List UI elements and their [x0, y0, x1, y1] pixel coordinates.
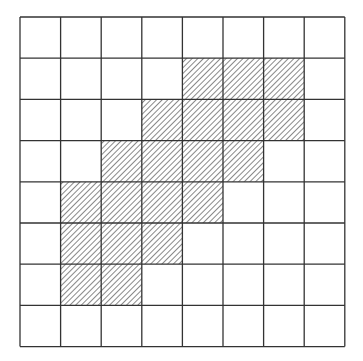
shaded-cell — [182, 58, 223, 99]
shaded-cell — [182, 99, 223, 140]
shaded-cell — [142, 223, 183, 264]
shaded-cell — [101, 264, 142, 305]
shaded-cell — [182, 182, 223, 223]
shaded-cell — [142, 141, 183, 182]
shaded-cell — [61, 182, 102, 223]
shaded-cell — [223, 58, 264, 99]
shaded-cell — [101, 141, 142, 182]
shaded-cell — [182, 141, 223, 182]
shaded-cell — [223, 141, 264, 182]
shaded-cell — [101, 182, 142, 223]
shaded-cell — [61, 223, 102, 264]
shaded-cell — [101, 223, 142, 264]
shaded-cell — [61, 264, 102, 305]
hatched-grid-diagram — [19, 16, 349, 351]
shaded-cell — [264, 58, 305, 99]
shaded-cell — [223, 99, 264, 140]
shaded-cell — [142, 99, 183, 140]
shaded-cell — [142, 182, 183, 223]
shaded-cell — [264, 99, 305, 140]
